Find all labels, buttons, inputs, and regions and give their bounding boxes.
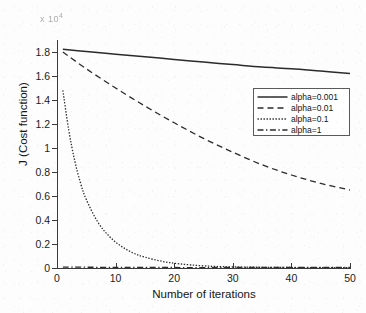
y-tick-label: 1.6 [10,71,50,81]
x-tick-mark [350,263,351,269]
legend-item[interactable]: alpha=0.01 [254,103,349,114]
chart-legend: alpha=0.001alpha=0.01alpha=0.1alpha=1 [253,88,350,136]
y-tick-label: 1 [10,143,50,153]
y-tick-label: 1.4 [10,95,50,105]
y-axis-label: J (Cost function) [17,49,29,199]
x-axis-label: Number of iterations [57,288,351,300]
legend-item[interactable]: alpha=0.1 [254,114,349,125]
y-axis-exponent-annotation: x 104 [40,12,63,24]
x-tick-label: 50 [335,272,365,284]
x-axis-line [57,268,351,269]
y-tick-label: 0.6 [10,191,50,201]
series-curves [57,40,350,268]
y-tick-label: 0.2 [10,239,50,249]
cost-function-chart: x 104 00.20.40.60.811.21.41.61.8 0102030… [0,0,366,313]
x-tick-label: 10 [101,272,131,284]
legend-label: alpha=0.1 [291,115,329,124]
y-tick-label: 1.8 [10,47,50,57]
legend-item[interactable]: alpha=1 [254,125,349,136]
y-tick-label: 1.2 [10,119,50,129]
legend-line-swatch [257,103,288,113]
legend-label: alpha=1 [291,126,322,135]
plot-area [57,40,350,268]
legend-label: alpha=0.01 [291,104,333,113]
x-tick-label: 40 [276,272,306,284]
exponent-mantissa: x 10 [40,14,59,24]
legend-line-swatch [257,114,288,124]
legend-line-swatch [257,92,288,102]
y-tick-label: 0.4 [10,215,50,225]
legend-item[interactable]: alpha=0.001 [254,92,349,103]
exponent-power: 4 [59,12,63,19]
x-tick-label: 0 [42,272,72,284]
y-tick-label: 0.8 [10,167,50,177]
legend-line-swatch [257,125,288,135]
series-line-alpha-0-001 [63,49,350,73]
legend-label: alpha=0.001 [291,93,338,102]
x-tick-label: 30 [218,272,248,284]
x-tick-label: 20 [159,272,189,284]
